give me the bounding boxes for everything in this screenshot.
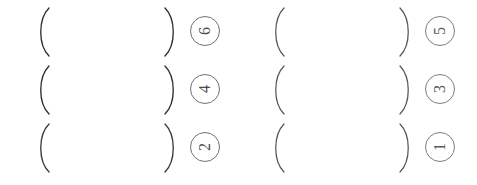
question-number: 2: [197, 143, 213, 151]
close-paren-icon: [158, 64, 184, 116]
question-number: 1: [432, 143, 448, 151]
close-paren-icon: [393, 64, 419, 116]
close-paren-icon: [393, 6, 419, 58]
question-number: 6: [197, 27, 213, 35]
open-paren-icon: [30, 64, 56, 116]
open-paren-icon: [265, 122, 291, 174]
question-number-badge: 3: [425, 74, 455, 104]
question-number-badge: 2: [190, 132, 220, 162]
question-number-badge: 6: [190, 16, 220, 46]
answer-group[interactable]: 3: [255, 58, 455, 120]
close-paren-icon: [158, 122, 184, 174]
answer-group[interactable]: 6: [20, 0, 220, 62]
answer-row: 2 1: [0, 116, 477, 178]
answer-row: 6 5: [0, 0, 477, 62]
scanned-page: 6 5: [0, 0, 477, 185]
close-paren-icon: [393, 122, 419, 174]
open-paren-icon: [265, 6, 291, 58]
question-number-badge: 5: [425, 16, 455, 46]
answer-group[interactable]: 5: [255, 0, 455, 62]
question-number-badge: 1: [425, 132, 455, 162]
open-paren-icon: [30, 6, 56, 58]
open-paren-icon: [30, 122, 56, 174]
open-paren-icon: [265, 64, 291, 116]
answer-group[interactable]: 2: [20, 116, 220, 178]
answer-group[interactable]: 1: [255, 116, 455, 178]
question-number: 3: [432, 85, 448, 93]
close-paren-icon: [158, 6, 184, 58]
question-number-badge: 4: [190, 74, 220, 104]
question-number: 4: [197, 85, 213, 93]
answer-group[interactable]: 4: [20, 58, 220, 120]
answer-row: 4 3: [0, 58, 477, 120]
question-number: 5: [432, 27, 448, 35]
